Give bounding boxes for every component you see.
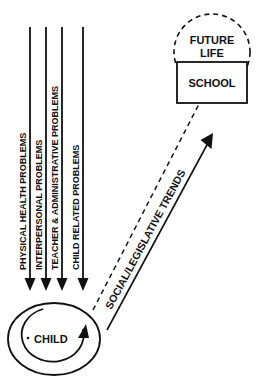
- diagram-svg: FUTURE LIFE SCHOOL SOCIAL/LEGISLATIVE TR…: [0, 0, 275, 382]
- trend-arrow-line: [107, 143, 208, 330]
- stream-teacher-administrative-problems: TEACHER & ADMINISTRATIVE PROBLEMS: [50, 27, 68, 291]
- stream-interpersonal-problems: INTERPERSONAL PROBLEMS: [34, 27, 52, 291]
- node-school: SCHOOL: [177, 62, 247, 103]
- connector-future-link: [93, 104, 199, 310]
- stream-1-label: PHYSICAL HEALTH PROBLEMS: [18, 133, 28, 270]
- child-bullet-dot-icon: [27, 337, 30, 340]
- stream-4-label: CHILD RELATED PROBLEMS: [71, 145, 81, 270]
- stream-child-related-problems: CHILD RELATED PROBLEMS: [71, 27, 89, 291]
- stream-3-down-arrow-icon: [57, 278, 68, 291]
- stream-2-down-arrow-icon: [41, 278, 52, 291]
- future-life-label-line2: LIFE: [200, 47, 224, 59]
- stream-3-label: TEACHER & ADMINISTRATIVE PROBLEMS: [50, 86, 60, 270]
- school-label: SCHOOL: [188, 77, 235, 89]
- stream-2-label: INTERPERSONAL PROBLEMS: [34, 140, 44, 270]
- future-life-label-line1: FUTURE: [190, 34, 235, 46]
- trend-arrow-label: SOCIAL/LEGISLATIVE TRENDS: [102, 167, 187, 311]
- stream-1-down-arrow-icon: [25, 278, 36, 291]
- stream-physical-health-problems: PHYSICAL HEALTH PROBLEMS: [18, 27, 36, 291]
- diagram-canvas: FUTURE LIFE SCHOOL SOCIAL/LEGISLATIVE TR…: [0, 0, 275, 382]
- future-link-dashed-line: [93, 104, 199, 310]
- node-child: CHILD: [8, 303, 100, 375]
- connector-trend-arrow: SOCIAL/LEGISLATIVE TRENDS: [102, 133, 213, 330]
- stream-4-down-arrow-icon: [78, 278, 89, 291]
- stream-group: PHYSICAL HEALTH PROBLEMS INTERPERSONAL P…: [18, 27, 89, 291]
- child-label: CHILD: [34, 333, 68, 345]
